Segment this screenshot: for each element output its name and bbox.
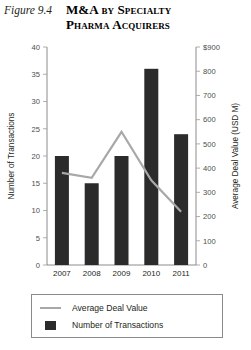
chart-svg: 0510152025303540010020030040050060070080… (0, 43, 251, 288)
legend-item-average-deal-value: Average Deal Value (40, 301, 148, 315)
figure-title-line-1: M&A by Specialty (66, 2, 248, 17)
y-axis-right-tick-label: 700 (203, 91, 216, 100)
y-axis-left-tick-label: 15 (32, 179, 40, 188)
y-axis-right-tick-label: 500 (203, 140, 216, 149)
legend-line-swatch-icon (40, 307, 61, 309)
legend-item-number-of-transactions: Number of Transactions (40, 318, 163, 332)
x-axis-label-2009: 2009 (113, 269, 131, 278)
y-axis-left-title: Number of Transactions (7, 113, 16, 200)
y-axis-left-tick-label: 0 (36, 261, 40, 270)
y-axis-left-tick-label: 5 (36, 234, 40, 243)
y-axis-left-tick-label: 30 (32, 97, 40, 106)
figure-title: M&A by Specialty Pharma Acquirers (66, 2, 248, 32)
x-axis-label-2007: 2007 (53, 269, 71, 278)
y-axis-right-tick-label: 0 (203, 261, 207, 270)
y-axis-right-title: Average Deal Value (USD M) (231, 103, 240, 209)
figure-title-line-2: Pharma Acquirers (66, 17, 248, 32)
y-axis-left-tick-label: 35 (32, 70, 40, 79)
y-axis-left-tick-label: 10 (32, 206, 40, 215)
figure-root: Figure 9.4 M&A by Specialty Pharma Acqui… (0, 0, 251, 350)
y-axis-right-tick-label: 200 (203, 212, 216, 221)
bar-2011 (174, 134, 188, 265)
legend-label-number-of-transactions: Number of Transactions (72, 320, 163, 330)
y-axis-right-tick-label: 300 (203, 188, 216, 197)
x-axis-label-2010: 2010 (142, 269, 160, 278)
y-axis-left-tick-label: 40 (32, 43, 40, 52)
legend-label-average-deal-value: Average Deal Value (72, 303, 148, 313)
y-axis-left-tick-label: 25 (32, 125, 40, 134)
bar-2007 (55, 156, 69, 265)
chart-legend: Average Deal Value Number of Transaction… (31, 294, 223, 338)
y-axis-left-tick-label: 20 (32, 152, 40, 161)
figure-number: Figure 9.4 (4, 4, 52, 16)
legend-square-swatch-icon (45, 321, 56, 330)
y-axis-right-tick-label: 100 (203, 237, 216, 246)
y-axis-right-tick-label: 800 (203, 67, 216, 76)
x-axis-label-2011: 2011 (172, 269, 190, 278)
bar-2009 (115, 156, 129, 265)
y-axis-right-tick-label: $900 (203, 43, 220, 52)
y-axis-right-tick-label: 400 (203, 164, 216, 173)
bar-2008 (85, 183, 99, 265)
chart-plot-area: 0510152025303540010020030040050060070080… (0, 43, 251, 288)
x-axis-label-2008: 2008 (83, 269, 101, 278)
y-axis-right-tick-label: 600 (203, 115, 216, 124)
figure-title-block: Figure 9.4 M&A by Specialty Pharma Acqui… (0, 2, 251, 42)
bar-2010 (144, 69, 158, 265)
